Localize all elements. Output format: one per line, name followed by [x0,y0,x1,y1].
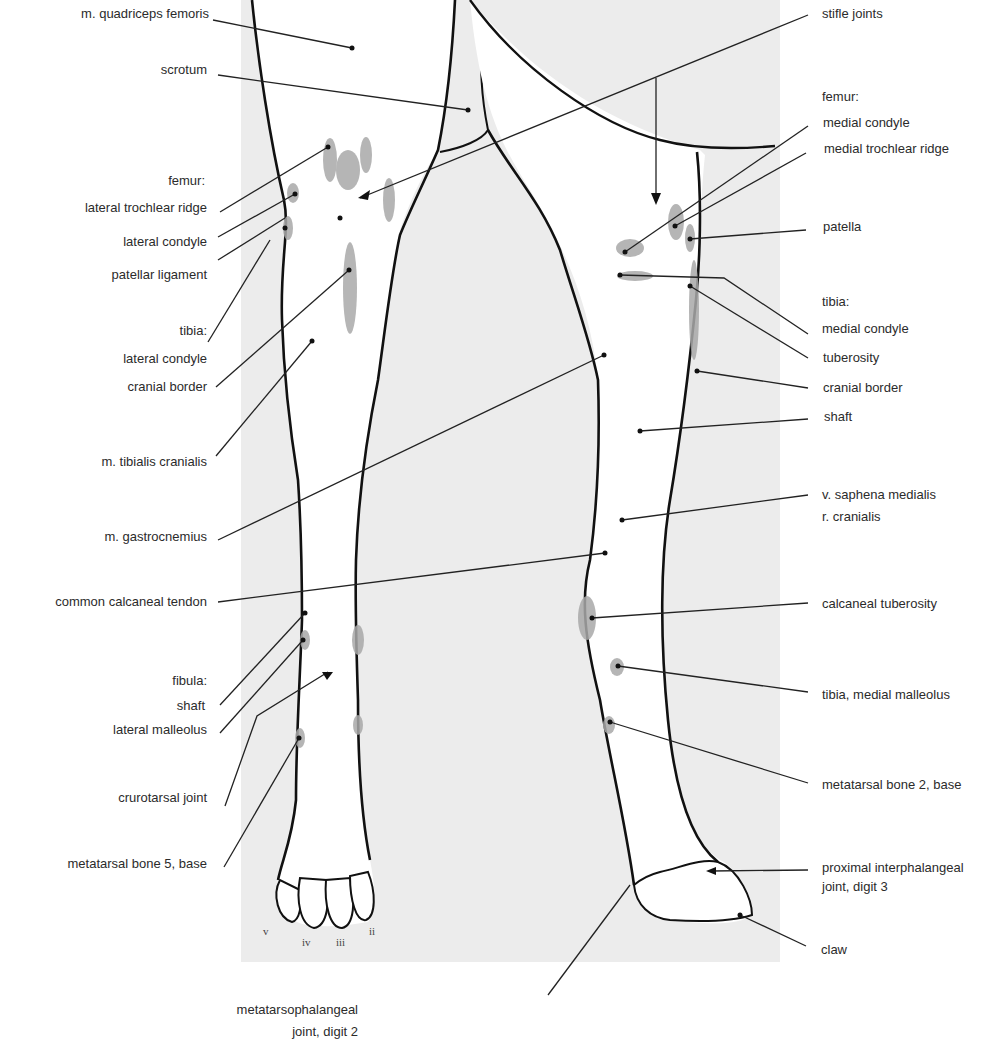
label-patellar-ligament: patellar ligament [112,267,207,283]
label-metatarsophalangeal-joint-line2: joint, digit 2 [292,1024,358,1040]
label-medial-trochlear-ridge: medial trochlear ridge [824,141,949,157]
label-fibula-heading: fibula: [172,673,207,689]
label-crurotarsal-joint: crurotarsal joint [118,790,207,806]
label-femur-heading: femur: [168,173,205,189]
label-metatarsal-bone-5-base: metatarsal bone 5, base [68,856,207,872]
label-v-saphena-medialis: v. saphena medialis [822,487,936,503]
label-tuberosity: tuberosity [823,350,879,366]
label-lateral-condyle-femur: lateral condyle [123,234,207,250]
label-tibia-medial-malleolus: tibia, medial malleolus [822,687,950,703]
label-lateral-condyle-tibia: lateral condyle [123,351,207,367]
digit-numeral-iii: iii [336,936,345,948]
label-proximal-interphalangeal-joint: proximal interphalangeal [822,860,964,876]
digit-numeral-ii: ii [369,925,375,937]
label-fibula-shaft: shaft [177,698,205,714]
label-lateral-malleolus: lateral malleolus [113,722,207,738]
label-r-cranialis: r. cranialis [822,509,881,525]
label-claw: claw [821,942,847,958]
label-stifle-joints: stifle joints [822,6,883,22]
label-common-calcaneal-tendon: common calcaneal tendon [55,594,207,610]
label-scrotum: scrotum [161,62,207,78]
label-cranial-border-tibia-right: cranial border [823,380,903,396]
label-tibia-shaft: shaft [824,409,852,425]
label-metatarsal-bone-2-base: metatarsal bone 2, base [822,777,961,793]
label-patella: patella [823,219,861,235]
label-m-quadriceps-femoris: m. quadriceps femoris [81,6,209,22]
digit-numeral-iv: iv [302,936,311,948]
label-m-gastrocnemius: m. gastrocnemius [104,529,207,545]
label-metatarsophalangeal-joint: metatarsophalangeal [237,1002,358,1018]
label-lateral-trochlear-ridge: lateral trochlear ridge [85,200,207,216]
label-tibia-heading: tibia: [180,323,207,339]
digit-numeral-v: v [263,925,269,937]
left-limb-shape [252,0,455,926]
anatomy-figure: m. quadriceps femoris scrotum femur: lat… [0,0,1005,1049]
label-tibia-heading-right: tibia: [822,294,849,310]
label-medial-condyle-femur: medial condyle [823,115,910,131]
right-limb-shape [470,0,752,923]
label-femur-heading-right: femur: [822,89,859,105]
label-m-tibialis-cranialis: m. tibialis cranialis [102,454,207,470]
label-medial-condyle-tibia: medial condyle [822,321,909,337]
label-proximal-interphalangeal-joint-line2: joint, digit 3 [822,879,888,895]
label-calcaneal-tuberosity: calcaneal tuberosity [822,596,937,612]
label-cranial-border-tibia: cranial border [128,379,208,395]
